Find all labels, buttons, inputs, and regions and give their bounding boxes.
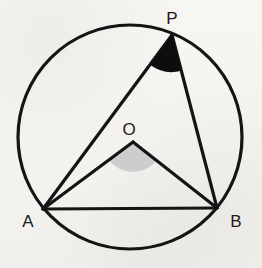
geometry-diagram-page: P O A B — [0, 0, 262, 268]
vertex-label-O: O — [122, 120, 135, 139]
segment-OA — [43, 142, 133, 209]
circle-geometry-figure: P O A B — [0, 0, 262, 268]
vertex-label-P: P — [166, 9, 177, 28]
vertex-label-B: B — [230, 212, 241, 231]
central-angle-AOB-sector — [109, 142, 157, 172]
segment-AB — [43, 208, 217, 209]
vertex-label-A: A — [22, 212, 34, 231]
inscribed-angle-APB-sector — [150, 35, 181, 72]
segment-OB — [133, 142, 217, 208]
